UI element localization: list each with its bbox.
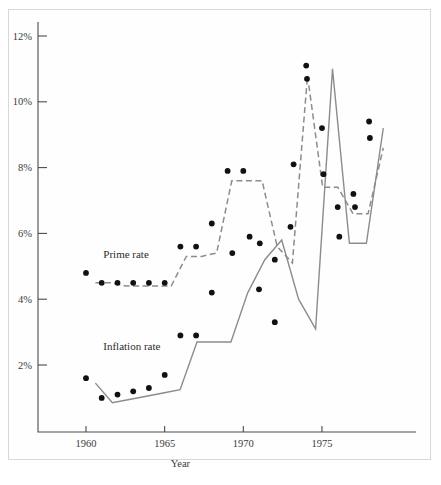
data-point <box>303 63 309 69</box>
data-point <box>115 280 121 286</box>
series-label-inflation-rate: Inflation rate <box>103 340 160 352</box>
data-point <box>209 221 215 227</box>
data-point <box>83 375 89 381</box>
y-axis-tick-label: 4% <box>18 294 32 305</box>
x-axis-tick-label: 1960 <box>76 438 97 449</box>
data-point <box>162 372 168 378</box>
x-axis-tick-label: 1965 <box>154 438 175 449</box>
data-point <box>162 280 168 286</box>
y-axis-tick-label: 8% <box>18 162 32 173</box>
data-point <box>366 119 372 125</box>
rates-line-chart: 2%4%6%8%10%12%1960196519701975YearPrime … <box>0 0 441 485</box>
y-axis-tick-label: 6% <box>18 228 32 239</box>
data-point <box>288 224 294 230</box>
data-point <box>335 204 341 210</box>
data-point <box>209 290 215 296</box>
x-axis-tick-label: 1970 <box>233 438 254 449</box>
data-point <box>99 395 105 401</box>
data-point <box>247 234 253 240</box>
data-point <box>229 250 235 256</box>
data-point <box>99 280 105 286</box>
data-point <box>130 280 136 286</box>
data-point <box>146 385 152 391</box>
data-point <box>256 286 262 292</box>
data-point <box>304 76 310 82</box>
data-point <box>257 240 263 246</box>
y-axis-tick-label: 10% <box>13 96 33 107</box>
data-point <box>319 125 325 131</box>
data-point <box>272 257 278 263</box>
data-point <box>193 244 199 250</box>
data-point <box>336 234 342 240</box>
data-point <box>178 333 184 339</box>
y-axis-tick-label: 12% <box>13 31 33 42</box>
series-label-prime-rate: Prime rate <box>103 248 149 260</box>
x-axis-title: Year <box>171 458 191 469</box>
data-point <box>193 333 199 339</box>
data-point <box>351 191 357 197</box>
data-point <box>178 244 184 250</box>
x-axis-tick-label: 1975 <box>311 438 332 449</box>
data-point <box>240 168 246 174</box>
data-point <box>115 392 121 398</box>
data-point <box>146 280 152 286</box>
data-point <box>321 171 327 177</box>
y-axis-tick-label: 2% <box>18 360 32 371</box>
data-point <box>225 168 231 174</box>
data-point <box>272 319 278 325</box>
chart-figure: 2%4%6%8%10%12%1960196519701975YearPrime … <box>0 0 441 485</box>
data-point <box>367 135 373 141</box>
data-point <box>291 161 297 167</box>
data-point <box>352 204 358 210</box>
chart-axes <box>38 22 416 432</box>
data-point <box>130 388 136 394</box>
data-point <box>83 270 89 276</box>
